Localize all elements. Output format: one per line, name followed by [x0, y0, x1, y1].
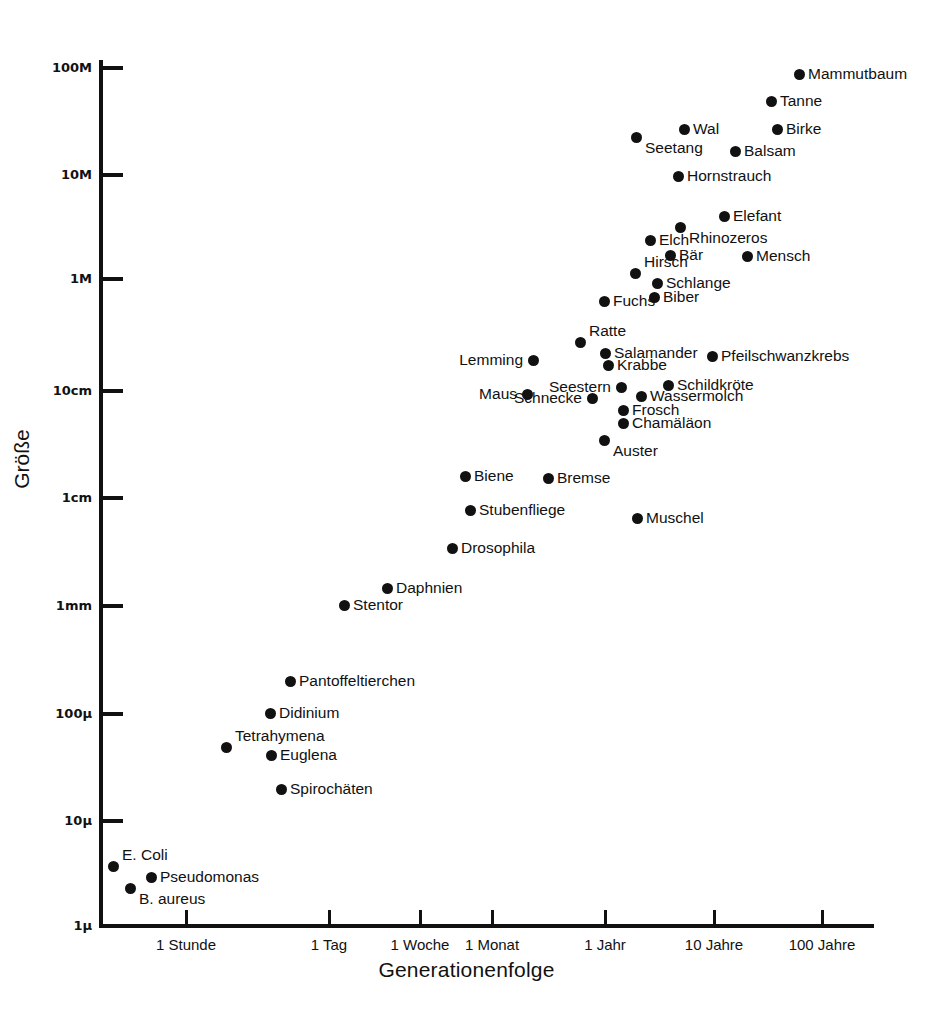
y-tick-mark	[101, 924, 123, 928]
data-point-label: E. Coli	[122, 847, 168, 863]
data-point-label: Rhinozeros	[689, 230, 767, 246]
data-point-label: Schnecke	[0, 390, 582, 406]
y-tick-mark	[101, 496, 123, 500]
data-point[interactable]	[221, 742, 232, 753]
data-point[interactable]	[636, 391, 647, 402]
data-point-label: Lemming	[0, 352, 523, 368]
data-point-label: Pfeilschwanzkrebs	[721, 348, 849, 364]
y-tick-mark	[101, 173, 123, 177]
data-point[interactable]	[618, 418, 629, 429]
data-point[interactable]	[285, 676, 296, 687]
y-axis-title: Größe	[10, 399, 34, 519]
x-tick-mark	[491, 910, 494, 926]
x-tick-mark	[328, 910, 331, 926]
data-point-label: B. aureus	[139, 891, 205, 907]
data-point[interactable]	[631, 132, 642, 143]
data-point[interactable]	[652, 278, 663, 289]
data-point-label: Birke	[786, 121, 821, 137]
data-point[interactable]	[447, 543, 458, 554]
data-point[interactable]	[632, 513, 643, 524]
data-point-label: Mensch	[756, 248, 810, 264]
data-point[interactable]	[460, 471, 471, 482]
data-point-label: Daphnien	[396, 580, 462, 596]
data-point-label: Pantoffeltierchen	[299, 673, 415, 689]
data-point[interactable]	[616, 382, 627, 393]
x-tick-mark	[713, 910, 716, 926]
data-point-label: Pseudomonas	[160, 869, 259, 885]
data-point-label: Didinium	[279, 705, 339, 721]
data-point[interactable]	[794, 69, 805, 80]
data-point[interactable]	[276, 784, 287, 795]
data-point-label: Bremse	[557, 470, 610, 486]
data-point-label: Drosophila	[461, 540, 535, 556]
data-point[interactable]	[125, 883, 136, 894]
scatter-plot: 100M10M1M10cm1cm1mm100μ10μ1μ 1 Stunde1 T…	[0, 0, 933, 1023]
data-point-label: Hornstrauch	[687, 168, 771, 184]
data-point[interactable]	[339, 600, 350, 611]
y-tick-mark	[101, 277, 123, 281]
data-point[interactable]	[766, 96, 777, 107]
data-point[interactable]	[600, 348, 611, 359]
data-point-label: Hirsch	[644, 254, 688, 270]
data-point[interactable]	[599, 296, 610, 307]
data-point-label: Elefant	[733, 208, 781, 224]
y-tick-label: 100μ	[0, 707, 100, 720]
data-point[interactable]	[630, 268, 641, 279]
data-point[interactable]	[599, 435, 610, 446]
y-tick-mark	[101, 819, 123, 823]
y-tick-mark	[101, 604, 123, 608]
data-point[interactable]	[382, 583, 393, 594]
data-point-label: Chamäläon	[632, 415, 711, 431]
data-point-label: Wal	[693, 121, 719, 137]
y-tick-label: 1M	[0, 272, 100, 285]
data-point[interactable]	[730, 146, 741, 157]
data-point-label: Stubenfliege	[479, 502, 565, 518]
data-point-label: Mammutbaum	[808, 66, 907, 82]
data-point[interactable]	[603, 360, 614, 371]
x-tick-label: 100 Jahre	[742, 937, 902, 952]
data-point[interactable]	[719, 211, 730, 222]
x-tick-label: 1 Stunde	[106, 937, 266, 952]
x-tick-mark	[604, 910, 607, 926]
data-point-label: Ratte	[589, 323, 626, 339]
data-point[interactable]	[266, 750, 277, 761]
data-point-label: Stentor	[353, 597, 403, 613]
data-point-label: Auster	[613, 443, 658, 459]
data-point[interactable]	[265, 708, 276, 719]
data-point[interactable]	[146, 872, 157, 883]
data-point[interactable]	[618, 405, 629, 416]
data-point[interactable]	[543, 473, 554, 484]
y-tick-mark	[101, 712, 123, 716]
data-point[interactable]	[587, 393, 598, 404]
data-point-label: Tetrahymena	[235, 728, 325, 744]
data-point[interactable]	[707, 351, 718, 362]
data-point[interactable]	[673, 171, 684, 182]
data-point[interactable]	[575, 337, 586, 348]
y-tick-label: 100M	[0, 61, 100, 74]
x-axis-line	[99, 924, 874, 928]
y-tick-label: 1μ	[0, 919, 100, 932]
data-point-label: Biene	[474, 468, 514, 484]
y-tick-mark	[101, 66, 123, 70]
data-point-label: Euglena	[280, 747, 337, 763]
x-tick-mark	[419, 910, 422, 926]
data-point-label: Biber	[663, 289, 699, 305]
data-point[interactable]	[645, 235, 656, 246]
data-point-label: Fuchs	[613, 293, 655, 309]
y-tick-label: 1mm	[0, 599, 100, 612]
data-point-label: Spirochäten	[290, 781, 373, 797]
data-point-label: Krabbe	[617, 357, 667, 373]
x-tick-mark	[821, 910, 824, 926]
x-tick-mark	[185, 910, 188, 926]
data-point-label: Muschel	[646, 510, 704, 526]
data-point[interactable]	[772, 124, 783, 135]
data-point[interactable]	[465, 505, 476, 516]
data-point[interactable]	[108, 861, 119, 872]
data-point-label: Seetang	[645, 140, 703, 156]
x-axis-title: Generationenfolge	[0, 958, 933, 982]
y-tick-label: 10μ	[0, 814, 100, 827]
data-point[interactable]	[742, 251, 753, 262]
data-point[interactable]	[679, 124, 690, 135]
data-point[interactable]	[528, 355, 539, 366]
data-point-label: Tanne	[780, 93, 822, 109]
